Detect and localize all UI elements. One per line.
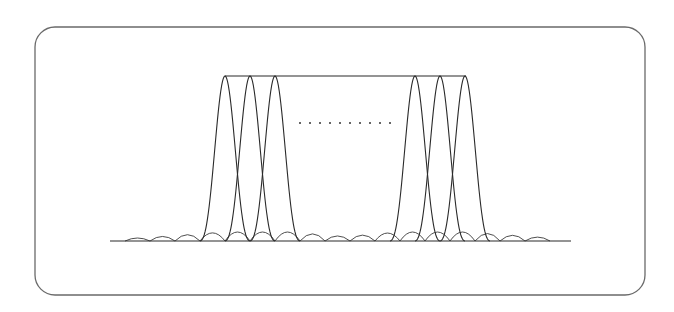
ellipsis-dot: [319, 122, 321, 124]
ellipsis-dot: [369, 122, 371, 124]
ellipsis-dot: [329, 122, 331, 124]
ellipsis-dot: [389, 122, 391, 124]
ellipsis-dot: [309, 122, 311, 124]
ellipsis-dot: [379, 122, 381, 124]
ellipsis-dot: [339, 122, 341, 124]
ellipsis-dot: [359, 122, 361, 124]
ellipsis-dot: [299, 122, 301, 124]
diagram-frame: [35, 27, 645, 295]
ofdm-spectrum-diagram: [0, 0, 674, 312]
ellipsis-dot: [349, 122, 351, 124]
